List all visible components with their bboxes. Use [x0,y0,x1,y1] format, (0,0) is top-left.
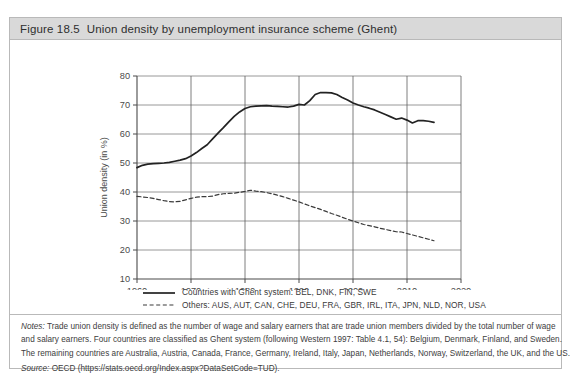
figure-number: Figure 18.5 [20,23,80,35]
source-line: Source: OECD (https://stats.oecd.org/Ind… [21,362,551,375]
line-chart: 1020304050607080 19601970198019902000201… [10,40,561,290]
notes-line-2: and salary earners. Four countries are c… [21,333,551,346]
y-axis-title-group: Union density (in %) [99,137,109,218]
data-series-group [137,93,434,241]
gridlines-group [137,76,461,279]
legend-label-ghent: Countries with Ghent system: BEL, DNK, F… [182,286,377,299]
notes-label: Notes: [21,322,45,331]
figure-title: Union density by unemployment insurance … [87,23,397,35]
legend-dashed-line-icon [142,300,176,309]
y-tick-label: 70 [120,100,130,110]
y-tick-label: 40 [120,187,130,197]
y-tick-label: 20 [120,245,130,255]
y-tick-label: 30 [120,216,130,226]
source-text: OECD (https://stats.oecd.org/Index.aspx?… [52,364,280,373]
figure-header: Figure 18.5 Union density by unemploymen… [10,18,561,40]
y-axis-title: Union density (in %) [99,137,109,218]
legend-label-others: Others: AUS, AUT, CAN, CHE, DEU, FRA, GB… [182,299,486,312]
y-tick-labels-group: 1020304050607080 [120,71,130,284]
legend-solid-line-icon [142,288,176,297]
y-tick-label: 60 [120,129,130,139]
source-label: Source: [21,364,49,373]
notes-line-1: Notes: Trade union density is defined as… [21,320,551,333]
series-line-others [137,190,434,240]
notes-divider [10,314,561,315]
y-tick-label: 80 [120,71,130,81]
figure-notes: Notes: Trade union density is defined as… [21,320,551,375]
notes-text-1: Trade union density is defined as the nu… [47,322,556,331]
tick-marks-group [133,76,461,283]
notes-line-3: The remaining countries are Australia, A… [21,347,551,360]
chart-plot-area: 1020304050607080 19601970198019902000201… [10,40,561,290]
y-tick-label: 50 [120,158,130,168]
figure-container: Figure 18.5 Union density by unemploymen… [9,17,562,369]
chart-legend: Countries with Ghent system: BEL, DNK, F… [142,286,486,311]
legend-item-ghent: Countries with Ghent system: BEL, DNK, F… [142,286,486,299]
y-tick-label: 10 [120,274,130,284]
legend-item-others: Others: AUS, AUT, CAN, CHE, DEU, FRA, GB… [142,299,486,312]
series-line-ghent [137,93,434,168]
